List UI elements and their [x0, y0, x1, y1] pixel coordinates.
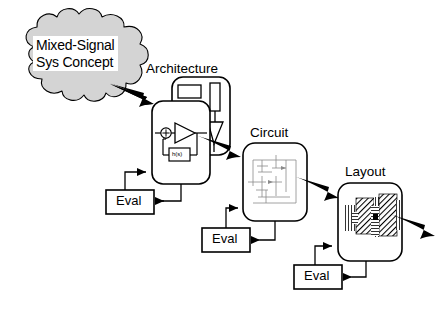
eval-label-layout: Eval — [304, 269, 329, 284]
concept-line-2: Sys Concept — [36, 54, 115, 71]
stage-label-layout: Layout — [345, 164, 386, 179]
architecture-block — [152, 101, 210, 184]
circuit-block — [243, 143, 307, 221]
eval-label-architecture: Eval — [116, 194, 141, 209]
concept-line-1: Mixed-Signal — [36, 37, 115, 54]
eval-label-circuit: Eval — [212, 232, 237, 247]
layout-block — [338, 183, 402, 261]
concept-cloud-text: Mixed-Signal Sys Concept — [33, 36, 118, 71]
transfer-function-label: h(s) — [172, 151, 182, 158]
stage-label-architecture: Architecture — [146, 61, 218, 76]
stage-label-circuit: Circuit — [250, 125, 288, 140]
flow-diagram-canvas: Mixed-Signal Sys Concept Architecture Ci… — [0, 0, 443, 310]
